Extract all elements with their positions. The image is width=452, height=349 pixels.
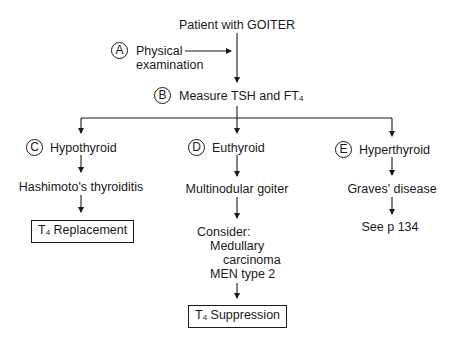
- branch-d-consider-line1: Medullary: [210, 239, 264, 253]
- branch-d-consider-line3: MEN type 2: [210, 267, 275, 281]
- branch-d-consider-heading: Consider:: [197, 225, 251, 239]
- start-node-title: Patient with GOITER: [179, 18, 295, 32]
- step-b-label-text: Measure TSH and FT: [179, 89, 299, 103]
- step-a-label-line1: Physical: [136, 44, 183, 58]
- goiter-flowchart: Patient with GOITER A Physical examinati…: [0, 0, 452, 349]
- step-b-label: Measure TSH and FT4: [179, 89, 303, 106]
- branch-e-diagnosis: Graves' disease: [347, 182, 436, 196]
- outcome-prefix: T: [38, 223, 46, 237]
- step-a-marker: A: [111, 42, 128, 59]
- branch-d-marker: D: [188, 139, 205, 156]
- branch-c-outcome-box: T4 Replacement: [31, 220, 134, 243]
- branch-c-marker: C: [26, 139, 43, 156]
- branch-c-diagnosis: Hashimoto's thyroiditis: [19, 180, 144, 194]
- step-b-label-subscript: 4: [299, 94, 303, 103]
- branch-c-label: Hypothyroid: [50, 141, 117, 155]
- outcome-text: Suppression: [207, 308, 280, 322]
- connector-lines: [0, 0, 452, 349]
- branch-e-label: Hyperthyroid: [359, 143, 430, 157]
- outcome-prefix: T: [195, 308, 203, 322]
- branch-e-marker: E: [335, 141, 352, 158]
- branch-d-diagnosis: Multinodular goiter: [186, 182, 289, 196]
- step-b-marker: B: [154, 87, 171, 104]
- step-a-label-line2: examination: [136, 58, 203, 72]
- branch-d-outcome-box: T4 Suppression: [188, 305, 287, 328]
- branch-e-outcome: See p 134: [362, 220, 419, 234]
- branch-d-consider-line2: carcinoma: [223, 253, 281, 267]
- outcome-text: Replacement: [50, 223, 127, 237]
- branch-d-label: Euthyroid: [212, 141, 265, 155]
